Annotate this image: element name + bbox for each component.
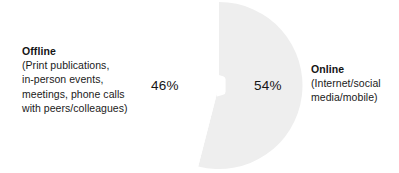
online-desc-line-1: (Internet/social (311, 76, 397, 90)
pie-chart-figure: Offline (Print publications, in-person e… (0, 0, 399, 173)
offline-desc-line-2: in-person events, (22, 72, 154, 86)
center-notch-group (217, 75, 226, 97)
online-label-description: (Internet/social media/mobile) (311, 76, 397, 104)
legend-item-online: Online (Internet/social media/mobile) (311, 62, 397, 105)
offline-percentage-value: 46% (151, 78, 179, 93)
offline-label-description: (Print publications, in-person events, m… (22, 58, 154, 115)
online-label-title: Online (311, 62, 397, 76)
online-desc-line-2: media/mobile) (311, 90, 397, 104)
offline-desc-line-1: (Print publications, (22, 58, 154, 72)
online-percentage-value: 54% (254, 78, 282, 93)
offline-desc-line-4: with peers/colleagues) (22, 101, 154, 115)
offline-label-title: Offline (22, 44, 154, 58)
legend-item-offline: Offline (Print publications, in-person e… (22, 44, 154, 115)
center-notch-icon (217, 75, 226, 97)
offline-desc-line-3: meetings, phone calls (22, 87, 154, 101)
